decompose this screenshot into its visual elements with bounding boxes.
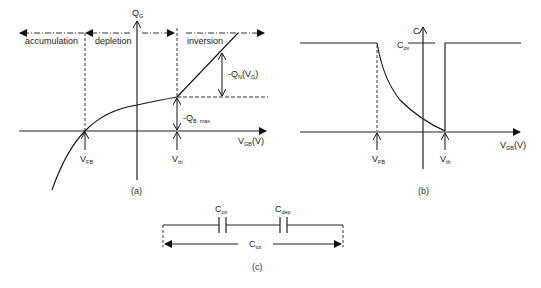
high-freq-jump <box>445 43 521 131</box>
qn-label: -QN(VG) <box>228 69 258 80</box>
region-inversion: inversion <box>187 36 223 46</box>
caption-b: (b) <box>418 186 429 196</box>
cox-label-b: Cox <box>397 40 410 51</box>
x-axis-label-b: VGB(V) <box>500 140 526 151</box>
x-axis-label-a: VGB(V) <box>238 136 264 147</box>
region-accumulation: accumulation <box>25 36 78 46</box>
caption-c: (c) <box>252 262 263 272</box>
panel-b: C VGB(V) Cox VFB Vth (b) <box>300 26 526 196</box>
ctot-label: Ctot <box>249 239 262 250</box>
cdep-label-c: Cdep <box>275 204 291 215</box>
caption-a: (a) <box>131 186 142 196</box>
vth-label-a: Vth <box>172 154 183 165</box>
y-axis-label-b: C <box>413 26 420 36</box>
panel-c: Cox Cdep Ctot (c) <box>163 204 343 272</box>
panel-a: QG VGB(V) accumulation depletion inversi… <box>19 8 268 196</box>
vfb-label-a: VFB <box>80 154 93 165</box>
vfb-label-b: VFB <box>372 154 385 165</box>
region-depletion: depletion <box>95 36 132 46</box>
vth-label-b: Vth <box>440 154 451 165</box>
qbmax-label: -QB, max <box>183 113 210 124</box>
cox-label-c: Cox <box>215 204 228 215</box>
qg-curve <box>52 97 177 190</box>
c-curve <box>377 43 445 131</box>
y-axis-label-a: QG <box>132 8 143 19</box>
mos-figure: QG VGB(V) accumulation depletion inversi… <box>0 0 541 288</box>
